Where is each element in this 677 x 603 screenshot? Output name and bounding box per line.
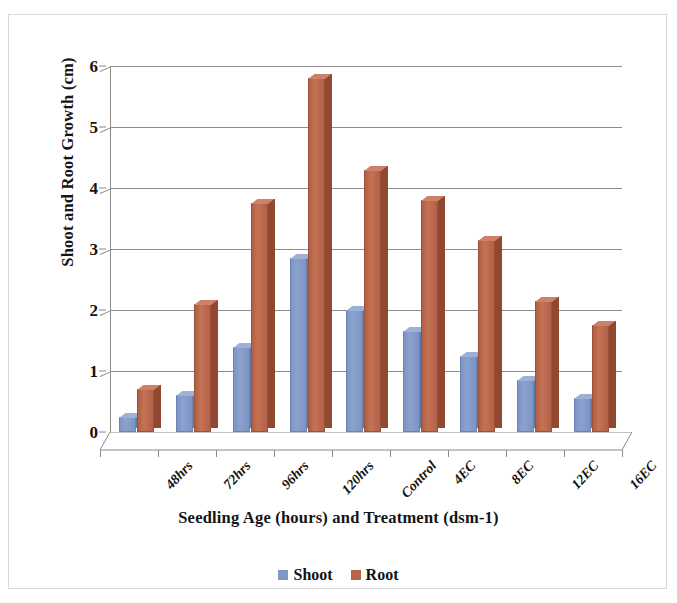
- x-tick-mark: [622, 450, 623, 457]
- legend-item-root: Root: [351, 566, 399, 584]
- bar-face: [290, 258, 307, 432]
- bar-group: [565, 66, 622, 432]
- bar-root: [308, 78, 325, 432]
- bar-series-container: [110, 66, 622, 432]
- bar-face: [119, 417, 136, 432]
- x-tick-mark: [506, 450, 507, 457]
- x-tick-mark: [274, 450, 275, 457]
- bar-side: [609, 321, 616, 428]
- y-tick-mark: [99, 66, 106, 67]
- x-category-label: 120hrs: [339, 458, 378, 498]
- bar-root: [592, 325, 609, 432]
- bar-side: [154, 385, 161, 428]
- x-tick-mark: [216, 450, 217, 457]
- bar-shoot: [233, 347, 250, 432]
- bar-face: [574, 398, 591, 432]
- bar-side: [552, 297, 559, 428]
- bar-root: [478, 240, 495, 432]
- bar-group: [338, 66, 395, 432]
- legend-swatch-shoot: [278, 570, 288, 580]
- bar-face: [592, 325, 609, 432]
- bar-root: [421, 200, 438, 432]
- bar-shoot: [574, 398, 591, 432]
- bar-side: [268, 199, 275, 428]
- bar-root: [364, 170, 381, 432]
- y-tick-mark: [99, 127, 106, 128]
- bar-face: [478, 240, 495, 432]
- bar-root: [137, 389, 154, 432]
- legend-swatch-root: [351, 570, 361, 580]
- x-tick-mark: [448, 450, 449, 457]
- bar-shoot: [460, 356, 477, 432]
- bar-face: [364, 170, 381, 432]
- x-category-label: 16EC: [626, 458, 660, 493]
- y-tick-mark: [99, 310, 106, 311]
- y-tick-label: 5: [90, 119, 99, 136]
- bar-shoot: [346, 310, 363, 432]
- bar-face: [403, 331, 420, 432]
- bar-group: [110, 66, 167, 432]
- bar-face: [233, 347, 250, 432]
- y-tick-mark: [99, 249, 106, 250]
- legend-label: Shoot: [293, 566, 332, 584]
- bar-face: [460, 356, 477, 432]
- bar-side: [381, 166, 388, 428]
- x-category-label: Control: [398, 458, 440, 501]
- bar-side: [211, 300, 218, 428]
- bar-side: [325, 74, 332, 428]
- bar-group: [167, 66, 224, 432]
- x-category-label: 72hrs: [220, 458, 254, 493]
- bar-face: [421, 200, 438, 432]
- bar-group: [224, 66, 281, 432]
- x-category-label: 96hrs: [278, 458, 312, 493]
- legend-label: Root: [366, 566, 399, 584]
- bar-shoot: [119, 417, 136, 432]
- bar-root: [194, 304, 211, 432]
- y-tick-label: 3: [90, 241, 99, 258]
- y-tick-label: 6: [90, 58, 99, 75]
- y-tick-label: 4: [90, 180, 99, 197]
- bar-side: [438, 196, 445, 428]
- y-tick-label: 1: [90, 363, 99, 380]
- y-tick-mark: [99, 371, 106, 372]
- y-tick-label: 2: [90, 302, 99, 319]
- bar-group: [281, 66, 338, 432]
- bar-face: [176, 395, 193, 432]
- bar-face: [137, 389, 154, 432]
- bar-group: [451, 66, 508, 432]
- bar-chart: Shoot and Root Growth (cm) 0123456 48hrs…: [0, 0, 677, 603]
- x-tick-mark: [564, 450, 565, 457]
- bar-face: [535, 301, 552, 432]
- legend-item-shoot: Shoot: [278, 566, 332, 584]
- bar-face: [194, 304, 211, 432]
- y-axis-title: Shoot and Root Growth (cm): [58, 12, 78, 312]
- x-tick-mark: [158, 450, 159, 457]
- bar-root: [535, 301, 552, 432]
- x-category-label: 12EC: [568, 458, 602, 493]
- x-tick-mark: [100, 450, 101, 457]
- x-category-label: 8EC: [508, 458, 537, 488]
- y-tick-label: 0: [90, 424, 99, 441]
- bar-shoot: [176, 395, 193, 432]
- bar-shoot: [403, 331, 420, 432]
- x-category-label: 4EC: [450, 458, 479, 488]
- bar-face: [251, 203, 268, 432]
- bar-face: [517, 380, 534, 432]
- bar-group: [508, 66, 565, 432]
- x-category-label: 48hrs: [162, 458, 196, 493]
- chart-page: Shoot and Root Growth (cm) 0123456 48hrs…: [0, 0, 677, 603]
- bar-shoot: [517, 380, 534, 432]
- y-tick-mark: [99, 188, 106, 189]
- x-tick-mark: [390, 450, 391, 457]
- bar-face: [346, 310, 363, 432]
- plot-floor: [100, 432, 632, 452]
- bar-side: [495, 236, 502, 428]
- bar-root: [251, 203, 268, 432]
- bar-face: [308, 78, 325, 432]
- bar-group: [394, 66, 451, 432]
- x-tick-mark: [332, 450, 333, 457]
- chart-legend: ShootRoot: [0, 566, 677, 584]
- x-axis-title: Seedling Age (hours) and Treatment (dsm-…: [0, 508, 677, 528]
- bar-shoot: [290, 258, 307, 432]
